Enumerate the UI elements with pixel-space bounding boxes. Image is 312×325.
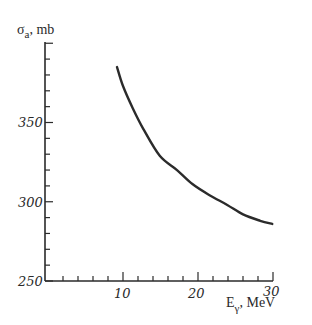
y-tick-label-300: 300	[18, 195, 43, 210]
chart-canvas: σa, mb 250 300 350 10 20 30 Eγ, MeV	[0, 0, 312, 325]
y-tick-label-250: 250	[17, 274, 43, 289]
cross-section-chart: σa, mb 250 300 350 10 20 30 Eγ, MeV	[0, 0, 312, 325]
cross-section-curve	[117, 67, 272, 224]
x-tick-label-10: 10	[114, 286, 131, 301]
y-axis-title: σa, mb	[17, 22, 54, 40]
x-axis-title: Eγ, MeV	[226, 295, 275, 314]
y-tick-label-350: 350	[18, 115, 43, 130]
axis-ticks	[45, 43, 273, 281]
x-tick-label-20: 20	[187, 286, 205, 301]
axes	[45, 42, 273, 281]
